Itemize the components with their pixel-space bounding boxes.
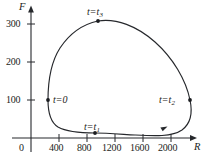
x-tick-label-800: 800: [77, 143, 91, 153]
data-point-t2: [188, 98, 192, 102]
data-point-t0: [46, 98, 50, 102]
annotation-t3: t=t3: [87, 7, 103, 17]
annotation-t1-sub: 1: [96, 126, 100, 134]
x-tick-label-1200: 1200: [102, 143, 121, 153]
y-tick-label-100: 100: [6, 95, 20, 105]
annotation-t2-sub: 2: [171, 99, 175, 107]
y-tick-label-200: 200: [6, 57, 20, 67]
x-tick-label-400: 400: [49, 143, 63, 153]
annotation-t2: t=t2: [159, 95, 175, 105]
y-axis-arrowhead: [28, 6, 34, 13]
x-axis-label: R: [194, 142, 200, 153]
annotation-t3-sub: 3: [99, 11, 103, 19]
annotation-t1: t=t1: [84, 122, 100, 132]
annotation-t0: t=0: [53, 95, 67, 105]
y-axis-label: F: [19, 2, 25, 13]
origin-label: 0: [19, 143, 24, 153]
x-tick-label-1600: 1600: [130, 143, 149, 153]
annotation-t0-value: 0: [62, 94, 67, 105]
x-tick-label-2000: 2000: [158, 143, 177, 153]
y-tick-label-300: 300: [6, 19, 20, 29]
data-point-t3: [96, 19, 100, 23]
trajectory-curve: [48, 20, 191, 135]
flow-direction-arrowhead: [160, 127, 167, 132]
phase-plane-figure: F R 0 100 200 300 400 800 1200 1600 2000…: [0, 0, 206, 167]
